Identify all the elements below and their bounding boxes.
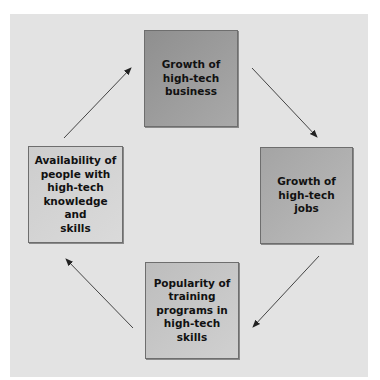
node-growth-of-high-tech-business: Growth of high-tech business	[144, 30, 238, 127]
node-popularity-of-training-programs: Popularity of training programs in high-…	[145, 262, 239, 359]
node-label: Availability of people with high-tech kn…	[33, 154, 118, 235]
node-growth-of-high-tech-jobs: Growth of high-tech jobs	[260, 147, 353, 244]
node-label: Popularity of training programs in high-…	[150, 277, 234, 345]
node-label: Growth of high-tech business	[162, 58, 221, 99]
node-availability-of-people: Availability of people with high-tech kn…	[28, 146, 123, 243]
node-label: Growth of high-tech jobs	[265, 175, 348, 216]
